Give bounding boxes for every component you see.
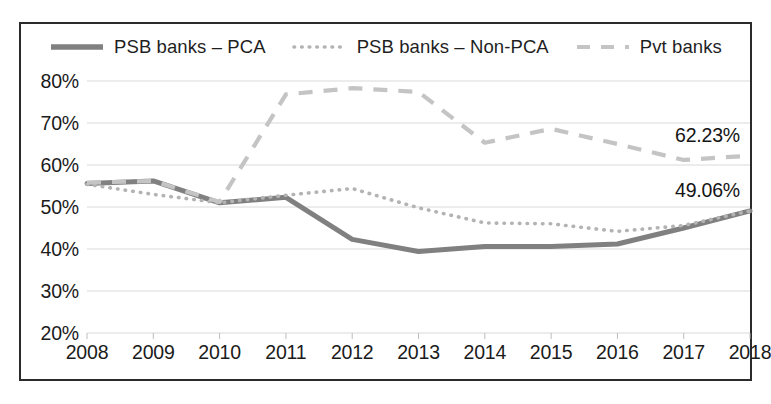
x-axis-label: 2018 bbox=[729, 341, 771, 364]
gridlines bbox=[87, 81, 750, 333]
x-axis-label: 2014 bbox=[464, 341, 507, 364]
x-axis-label: 2015 bbox=[530, 341, 573, 364]
chart-svg bbox=[21, 24, 754, 383]
chart-container: PSB banks – PCA PSB banks – Non-PCA Pvt … bbox=[19, 22, 752, 381]
y-axis-label: 30% bbox=[21, 280, 79, 303]
series-line-2 bbox=[87, 88, 750, 202]
x-axis-label: 2009 bbox=[132, 341, 175, 364]
data-label-0: 62.23% bbox=[675, 124, 740, 147]
y-axis-label: 60% bbox=[21, 154, 79, 177]
x-axis-label: 2013 bbox=[397, 341, 440, 364]
data-label-1: 49.06% bbox=[675, 179, 740, 202]
x-axis-label: 2010 bbox=[198, 341, 241, 364]
y-axis-label: 40% bbox=[21, 238, 79, 261]
x-axis-label: 2017 bbox=[662, 341, 705, 364]
x-axis-label: 2012 bbox=[331, 341, 374, 364]
x-axis-label: 2008 bbox=[66, 341, 109, 364]
x-axis-label: 2011 bbox=[265, 341, 306, 364]
plot-area: 80%70%60%50%40%30%20%2008200920102011201… bbox=[21, 24, 754, 383]
x-axis-ticks bbox=[87, 333, 750, 339]
y-axis-label: 50% bbox=[21, 196, 79, 219]
y-axis-label: 80% bbox=[21, 70, 79, 93]
x-axis-label: 2016 bbox=[596, 341, 639, 364]
y-axis-label: 70% bbox=[21, 112, 79, 135]
